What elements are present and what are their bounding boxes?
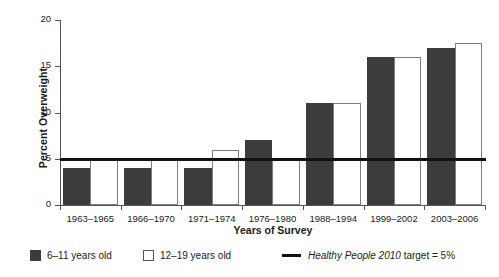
bar	[124, 168, 151, 205]
legend-label-series-two: 12–19 years old	[160, 250, 231, 261]
x-tick-label: 1966–1970	[121, 213, 182, 224]
healthy-people-target-line	[60, 158, 486, 161]
x-tick-label: 1988–1994	[303, 213, 364, 224]
legend-label-target-rest: target = 5%	[401, 250, 455, 261]
bar	[306, 103, 333, 205]
y-tick-label: 15	[40, 59, 51, 70]
bar	[427, 48, 454, 205]
legend-swatch-target-line-icon	[282, 254, 301, 257]
legend-swatch-6-11-icon	[30, 250, 41, 261]
bar-group	[245, 20, 300, 205]
legend-swatch-12-19-icon	[143, 250, 154, 261]
legend-item-target-line: Healthy People 2010 target = 5%	[282, 250, 455, 261]
x-tick	[303, 205, 304, 210]
legend-label-target-italic: Healthy People 2010	[308, 250, 401, 261]
y-tick-label: 0	[46, 198, 51, 209]
x-tick-label: 1999–2002	[364, 213, 425, 224]
y-tick-label: 5	[46, 152, 51, 163]
x-tick-label: 1963–1965	[60, 213, 121, 224]
bar	[63, 168, 90, 205]
bar	[184, 168, 211, 205]
x-tick-label: 1976–1980	[242, 213, 303, 224]
x-tick	[364, 205, 365, 210]
bar	[333, 103, 360, 205]
chart-legend: 6–11 years old 12–19 years old Healthy P…	[0, 250, 499, 270]
bar	[455, 43, 482, 205]
x-axis-line	[60, 205, 486, 206]
y-tick: 15	[55, 66, 60, 67]
bar-group	[306, 20, 361, 205]
bar-group	[124, 20, 179, 205]
y-tick: 10	[55, 113, 60, 114]
x-tick-label: 2003–2006	[424, 213, 485, 224]
bar-group	[184, 20, 239, 205]
bar	[394, 57, 421, 205]
bar	[367, 57, 394, 205]
x-tick	[60, 205, 61, 210]
bar-group	[367, 20, 422, 205]
x-tick	[424, 205, 425, 210]
x-tick	[181, 205, 182, 210]
overweight-prevalence-bar-chart: Percent Overweight 05101520 1963–1965196…	[0, 0, 499, 277]
x-axis-title: Years of Survey	[60, 224, 486, 236]
bar	[151, 159, 178, 205]
y-tick: 20	[55, 20, 60, 21]
legend-label-target: Healthy People 2010 target = 5%	[308, 250, 455, 261]
y-axis-line	[60, 20, 61, 206]
x-tick	[485, 205, 486, 210]
x-tick	[121, 205, 122, 210]
y-tick-label: 10	[40, 106, 51, 117]
bar-group	[63, 20, 118, 205]
bar-group	[427, 20, 482, 205]
plot-area: 05101520	[60, 20, 485, 205]
x-tick	[242, 205, 243, 210]
y-axis-title: Percent Overweight	[37, 23, 49, 213]
bar	[272, 159, 299, 205]
bar	[245, 140, 272, 205]
legend-item-series-two: 12–19 years old	[143, 250, 231, 261]
bar	[90, 159, 117, 205]
x-tick-label: 1971–1974	[181, 213, 242, 224]
legend-item-series-one: 6–11 years old	[30, 250, 112, 261]
y-tick-label: 20	[40, 13, 51, 24]
legend-label-series-one: 6–11 years old	[47, 250, 112, 261]
